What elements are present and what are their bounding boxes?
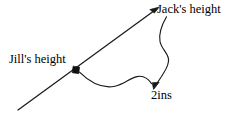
jill-height-marker [72, 66, 79, 73]
measurement-label: 2ins [151, 89, 172, 102]
height-diagram: Jack's height Jill's height 2ins [0, 0, 234, 117]
jacks-height-label: Jack's height [157, 3, 221, 16]
jill-leader-curve [80, 72, 152, 87]
jills-height-label: Jill's height [9, 53, 66, 66]
jack-leader-curve [152, 17, 168, 90]
